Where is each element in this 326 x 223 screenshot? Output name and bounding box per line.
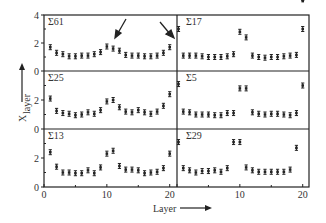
data-point bbox=[188, 53, 191, 58]
data-point bbox=[263, 169, 266, 174]
data-point bbox=[118, 105, 121, 110]
data-point bbox=[55, 164, 58, 169]
data-point bbox=[251, 168, 254, 173]
x-tick-label: 20 bbox=[298, 189, 308, 200]
y-axis-label-sub: layer bbox=[21, 93, 32, 114]
y-tick-label: 2 bbox=[34, 153, 39, 164]
data-point bbox=[80, 171, 83, 176]
x-tick-label: 0 bbox=[42, 189, 47, 200]
chart: 0240202010201020 Σ61Σ17Σ25Σ5Σ13Σ29 Layer… bbox=[0, 0, 326, 223]
data-point bbox=[112, 148, 115, 153]
data-point bbox=[251, 53, 254, 58]
x-axis-arrow bbox=[180, 205, 212, 211]
series-Σ5 bbox=[177, 82, 304, 118]
data-point bbox=[295, 52, 298, 57]
data-point bbox=[55, 108, 58, 113]
data-point bbox=[118, 48, 121, 53]
data-point bbox=[270, 55, 273, 60]
series-Σ25 bbox=[49, 92, 172, 118]
panel-label: Σ5 bbox=[186, 72, 197, 83]
data-point bbox=[61, 170, 64, 175]
data-point bbox=[143, 171, 146, 176]
data-point bbox=[99, 50, 102, 55]
data-point bbox=[232, 111, 235, 116]
data-point bbox=[137, 108, 140, 113]
data-point bbox=[143, 110, 146, 115]
data-point bbox=[93, 52, 96, 57]
panel-label: Σ17 bbox=[186, 16, 202, 27]
data-point bbox=[105, 151, 108, 156]
data-point bbox=[61, 111, 64, 116]
data-point bbox=[282, 112, 285, 117]
y-tick-label: 0 bbox=[34, 66, 39, 77]
y-axis-label: X layer bbox=[17, 93, 32, 122]
y-tick-label: 0 bbox=[34, 182, 39, 193]
data-point bbox=[99, 165, 102, 170]
data-point bbox=[232, 140, 235, 145]
data-point bbox=[201, 112, 204, 117]
panel-labels: Σ61Σ17Σ25Σ5Σ13Σ29 bbox=[48, 16, 202, 141]
data-point bbox=[232, 52, 235, 57]
data-point bbox=[257, 55, 260, 60]
data-point bbox=[226, 166, 229, 171]
data-point bbox=[289, 53, 292, 58]
data-point bbox=[68, 170, 71, 175]
data-point bbox=[182, 109, 185, 114]
data-point bbox=[188, 110, 191, 115]
data-point bbox=[68, 111, 71, 116]
data-point bbox=[263, 55, 266, 60]
data-point bbox=[49, 150, 52, 155]
data-point bbox=[143, 54, 146, 59]
data-point bbox=[238, 140, 241, 145]
data-point bbox=[74, 54, 77, 59]
data-point bbox=[251, 110, 254, 115]
annotation-arrow-2 bbox=[160, 22, 174, 38]
panel-label: Σ29 bbox=[186, 130, 202, 141]
data-point bbox=[74, 171, 77, 176]
annotation-arrow-1 bbox=[115, 19, 126, 38]
data-point bbox=[149, 54, 152, 59]
x-tick-label: 10 bbox=[235, 189, 245, 200]
data-point bbox=[55, 50, 58, 55]
data-point bbox=[61, 52, 64, 57]
data-point bbox=[93, 111, 96, 116]
y-tick-label: 4 bbox=[34, 10, 39, 21]
data-point bbox=[182, 166, 185, 171]
data-point bbox=[68, 54, 71, 59]
data-point bbox=[245, 165, 248, 170]
data-point bbox=[226, 111, 229, 116]
data-point bbox=[137, 53, 140, 58]
panel-label: Σ61 bbox=[48, 16, 64, 27]
data-point bbox=[168, 151, 171, 156]
data-point bbox=[86, 110, 89, 115]
data-point bbox=[207, 169, 210, 174]
data-point bbox=[263, 112, 266, 117]
data-point bbox=[295, 145, 298, 150]
data-point bbox=[219, 169, 222, 174]
data-point bbox=[257, 111, 260, 116]
data-point bbox=[80, 112, 83, 117]
data-point bbox=[162, 50, 165, 55]
series-Σ61 bbox=[49, 44, 172, 59]
data-point bbox=[112, 98, 115, 103]
panel-frames bbox=[44, 15, 309, 187]
y-tick-label: 2 bbox=[34, 38, 39, 49]
data-point bbox=[257, 169, 260, 174]
data-point bbox=[80, 53, 83, 58]
data-point bbox=[137, 168, 140, 173]
data-point bbox=[124, 52, 127, 57]
data-point bbox=[162, 166, 165, 171]
data-point bbox=[156, 109, 159, 114]
data-point bbox=[238, 86, 241, 91]
data-point bbox=[245, 86, 248, 91]
data-point bbox=[124, 109, 127, 114]
data-point bbox=[156, 169, 159, 174]
data-point bbox=[226, 54, 229, 59]
data-point bbox=[213, 113, 216, 118]
x-tick-label: 10 bbox=[102, 189, 112, 200]
data-point bbox=[49, 45, 52, 50]
data-point bbox=[99, 108, 102, 113]
data-point bbox=[213, 168, 216, 173]
data-point bbox=[74, 113, 77, 118]
series-Σ17 bbox=[177, 27, 304, 61]
